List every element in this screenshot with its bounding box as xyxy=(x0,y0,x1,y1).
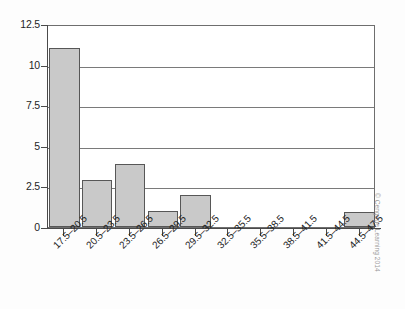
y-axis-label: 0 xyxy=(34,221,40,233)
y-axis-label: 5 xyxy=(34,140,40,152)
y-axis-label: 2.5 xyxy=(26,180,40,192)
bars-group xyxy=(48,26,374,227)
y-axis-label: 7.5 xyxy=(26,99,40,111)
y-axis-tick xyxy=(41,106,48,107)
plot-area xyxy=(47,25,375,228)
y-axis-tick xyxy=(41,228,48,229)
y-axis-tick xyxy=(41,66,48,67)
y-axis-tick xyxy=(41,25,48,26)
copyright-credit: © Cengage Learning 2014 xyxy=(374,193,381,272)
y-axis-label: 10 xyxy=(29,59,40,71)
y-axis-label: 12.5 xyxy=(20,18,40,30)
y-axis-tick xyxy=(41,187,48,188)
y-axis-line xyxy=(47,25,48,229)
y-axis-tick xyxy=(41,147,48,148)
bar xyxy=(49,48,80,227)
histogram-figure: © Cengage Learning 2014 02.557.51012.517… xyxy=(0,0,405,309)
